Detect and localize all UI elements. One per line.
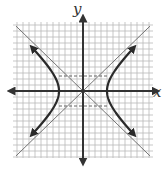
y-axis-label: y (72, 0, 82, 18)
x-axis-label: x (153, 83, 162, 101)
hyperbola-graph: y x (0, 0, 167, 169)
